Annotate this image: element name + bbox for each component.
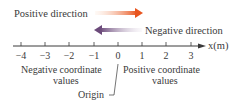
axis-label: x(m) <box>208 40 229 52</box>
origin-leader-line <box>109 64 118 95</box>
negative-values-caption-line2: values <box>53 75 79 86</box>
tick-label: −4 <box>16 50 27 61</box>
axis-arrowhead-icon <box>198 44 206 49</box>
tick-label: −2 <box>64 50 75 61</box>
tick-label: 0 <box>116 50 121 61</box>
negative-direction-arrow-icon <box>94 25 142 35</box>
positive-direction-label: Positive direction <box>14 8 89 19</box>
tick-label: −3 <box>40 50 51 61</box>
negative-direction-label: Negative direction <box>145 25 224 36</box>
tick-label: 2 <box>164 50 169 61</box>
tick-label: 3 <box>189 50 194 61</box>
tick-label: 1 <box>140 50 145 61</box>
positive-values-caption-line1: Positive coordinate <box>123 64 200 75</box>
origin-label: Origin <box>78 89 104 100</box>
negative-values-caption-line1: Negative coordinate <box>21 64 102 75</box>
positive-direction-arrow-icon <box>95 8 143 18</box>
x-axis <box>13 42 206 49</box>
number-line-diagram: Positive direction Negative direction x(… <box>0 0 239 104</box>
tick-label: −1 <box>89 50 100 61</box>
positive-values-caption-line2: values <box>152 75 178 86</box>
